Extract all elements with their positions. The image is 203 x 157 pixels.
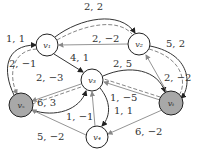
edge-label-v4-v3: 1, −1: [66, 111, 93, 122]
svg-text:v₄: v₄: [93, 133, 101, 142]
edge-v1-vs-dashed: [13, 49, 37, 94]
edge-label-v3-v4: 1, 1: [114, 105, 133, 116]
edge-v3-v4: [100, 88, 109, 126]
node-v4: v₄: [86, 126, 108, 148]
edge-label-v4-vs: 5, −2: [37, 131, 64, 142]
node-v3: v₃: [81, 69, 103, 91]
node-v2: v₂: [128, 33, 150, 55]
edge-label-v3-vt: 2, 5: [113, 58, 132, 69]
svg-text:v₂: v₂: [135, 40, 143, 49]
edge-label-v2-v1: 2, −2: [92, 33, 119, 44]
flow-network-diagram: v₁ v₂ v₃ v₄ vₛ vₜ 1, 1 2, −1 2, 2 2, −2 …: [0, 0, 203, 157]
edge-label-v1-v2: 2, 2: [84, 1, 103, 12]
edge-label-v1-vs: 2, −1: [9, 58, 36, 69]
edge-label-v1-v3: 4, 1: [70, 52, 89, 63]
edge-label-vt-v2: 2, −2: [164, 72, 191, 83]
edge-label-vs-v1: 1, 1: [6, 33, 25, 44]
svg-text:vₛ: vₛ: [17, 101, 25, 110]
edge-label-v3-vs: 2, −3: [36, 72, 63, 83]
node-vs: vₛ: [9, 93, 33, 117]
edge-v2-v1: [59, 44, 128, 45]
svg-text:v₃: v₃: [88, 76, 96, 85]
node-v1: v₁: [36, 34, 58, 56]
edge-vs-v1: [7, 45, 36, 95]
svg-text:v₁: v₁: [43, 41, 51, 50]
edge-label-vt-v4: 6, −2: [135, 126, 162, 137]
edge-label-v2-vt: 5, 2: [166, 38, 185, 49]
svg-text:vₜ: vₜ: [168, 99, 175, 108]
node-vt: vₜ: [159, 91, 183, 115]
edge-label-vs-v3: 6, 3: [37, 97, 56, 108]
edge-label-vt-v3: 1, −5: [110, 92, 137, 103]
